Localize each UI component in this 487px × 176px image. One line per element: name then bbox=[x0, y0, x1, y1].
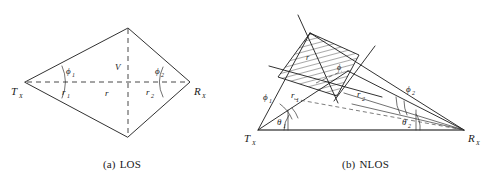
figure-root: T X R X ϕ 1 ϕ 2 r 1 r r 2 V (a)LOS bbox=[0, 0, 487, 176]
nlos-phi2-arc-inner bbox=[404, 101, 407, 115]
los-kite-outline bbox=[25, 28, 190, 137]
nlos-phi1-label: ϕ bbox=[263, 92, 268, 102]
los-v-label: V bbox=[115, 62, 122, 72]
nlos-rx-label: R bbox=[467, 132, 475, 144]
los-caption-tag: (a) bbox=[103, 158, 116, 170]
nlos-tx-label: T bbox=[244, 132, 251, 144]
los-phi1-sub: 1 bbox=[72, 72, 75, 78]
los-phi1-label: ϕ bbox=[66, 66, 71, 76]
nlos-caption: (b)NLOS bbox=[244, 158, 487, 170]
nlos-theta2-sub: 2 bbox=[408, 123, 411, 129]
los-caption-text: LOS bbox=[120, 158, 141, 170]
los-phi2-sub: 2 bbox=[161, 72, 164, 78]
los-rx-label: R bbox=[193, 85, 201, 97]
nlos-phi1-sub: 1 bbox=[269, 98, 272, 104]
nlos-phi2-arc bbox=[396, 97, 400, 114]
nlos-region-phi-label: ϕ bbox=[337, 63, 341, 72]
panel-los: T X R X ϕ 1 ϕ 2 r 1 r r 2 V (a)LOS bbox=[0, 0, 244, 176]
nlos-tx-sub: X bbox=[251, 140, 256, 146]
nlos-theta1-label: θ bbox=[277, 117, 282, 127]
nlos-r1-label: r bbox=[291, 90, 295, 100]
nlos-r1-sub: 1 bbox=[296, 97, 299, 103]
nlos-caption-text: NLOS bbox=[359, 158, 389, 170]
nlos-caption-tag: (b) bbox=[342, 158, 355, 170]
los-caption: (a)LOS bbox=[0, 158, 244, 170]
los-tx-sub: X bbox=[18, 93, 23, 99]
los-phi2-label: ϕ bbox=[155, 66, 160, 76]
los-r1-label: r bbox=[62, 87, 66, 97]
nlos-diagram: T X R X ϕ 1 r 1 r 2 ϕ 2 θ 1 θ 2 r bbox=[244, 0, 487, 176]
los-tx-label: T bbox=[11, 85, 18, 97]
nlos-r1-arc bbox=[292, 108, 298, 118]
nlos-theta1-sub: 1 bbox=[283, 123, 286, 129]
los-diagram: T X R X ϕ 1 ϕ 2 r 1 r r 2 V bbox=[0, 0, 244, 176]
nlos-scatter-region bbox=[278, 33, 359, 96]
los-rx-sub: X bbox=[201, 93, 206, 99]
los-r-label: r bbox=[105, 88, 109, 98]
nlos-r2-sub: 2 bbox=[362, 96, 365, 102]
nlos-r2-label: r bbox=[357, 89, 361, 99]
panel-nlos: T X R X ϕ 1 r 1 r 2 ϕ 2 θ 1 θ 2 r bbox=[244, 0, 487, 176]
nlos-phi2-sub: 2 bbox=[412, 90, 415, 96]
los-r2-sub: 2 bbox=[151, 93, 154, 99]
nlos-rx-sub: X bbox=[475, 140, 480, 146]
los-r2-label: r bbox=[146, 87, 150, 97]
nlos-theta2-label: θ bbox=[402, 117, 407, 127]
nlos-phi2-label: ϕ bbox=[406, 84, 411, 94]
los-r1-sub: 1 bbox=[67, 93, 70, 99]
